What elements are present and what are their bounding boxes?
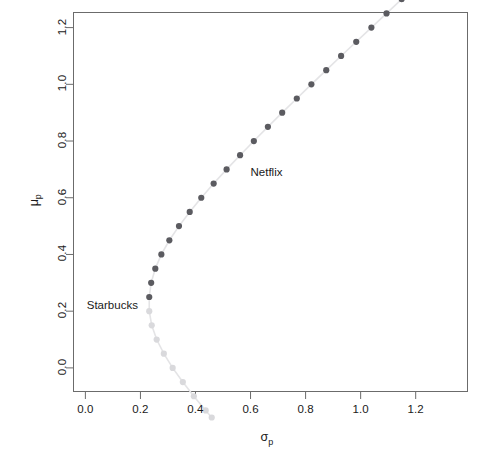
y-tick-label: 1.2 bbox=[56, 10, 68, 44]
x-tick-label: 0.2 bbox=[120, 403, 160, 415]
y-axis-title: μp bbox=[27, 180, 44, 220]
netflix-annotation: Netflix bbox=[251, 166, 283, 178]
y-tick-label: 0.6 bbox=[56, 180, 68, 214]
axis-ticks bbox=[66, 28, 416, 399]
x-tick-label: 0.0 bbox=[65, 403, 105, 415]
y-tick-label: 0.2 bbox=[56, 293, 68, 327]
chart-canvas: 0.00.20.40.60.81.01.2 0.00.20.40.60.81.0… bbox=[0, 0, 481, 454]
chart-svg bbox=[0, 0, 481, 454]
y-tick-label: 1.0 bbox=[56, 66, 68, 100]
y-tick-label: 0.0 bbox=[56, 350, 68, 384]
frontier-connector-line bbox=[149, 0, 448, 418]
x-axis-title: σp bbox=[261, 430, 274, 447]
x-tick-label: 0.6 bbox=[231, 403, 271, 415]
x-tick-label: 0.8 bbox=[286, 403, 326, 415]
y-tick-label: 0.4 bbox=[56, 236, 68, 270]
efficient-frontier-points bbox=[146, 0, 451, 300]
y-tick-label: 0.8 bbox=[56, 123, 68, 157]
starbucks-annotation: Starbucks bbox=[87, 299, 138, 311]
x-tick-label: 0.4 bbox=[175, 403, 215, 415]
x-tick-label: 1.2 bbox=[396, 403, 436, 415]
x-tick-label: 1.0 bbox=[341, 403, 381, 415]
